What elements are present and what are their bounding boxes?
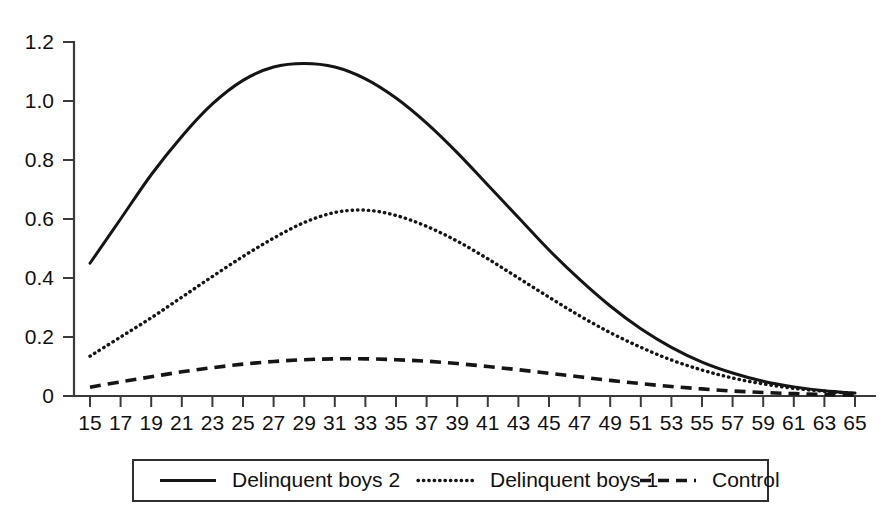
x-tick-label: 37 (415, 411, 438, 434)
y-axis-ticks: 00.20.40.60.81.01.2 (25, 30, 74, 407)
series-line-3 (90, 359, 855, 395)
series-line-1 (90, 64, 855, 394)
x-tick-label: 33 (354, 411, 377, 434)
x-tick-label: 53 (660, 411, 683, 434)
x-tick-label: 29 (293, 411, 316, 434)
y-tick-label: 0 (42, 384, 54, 407)
x-tick-label: 35 (384, 411, 407, 434)
chart-series-group (90, 64, 855, 396)
line-chart: 00.20.40.60.81.01.2 15171921232527293133… (0, 0, 892, 532)
x-tick-label: 23 (201, 411, 224, 434)
x-tick-label: 51 (629, 411, 652, 434)
y-tick-label: 1.2 (25, 30, 54, 53)
x-tick-label: 49 (599, 411, 622, 434)
chart-legend: Delinquent boys 2Delinquent boys 1Contro… (133, 460, 780, 501)
x-tick-label: 17 (109, 411, 132, 434)
x-tick-label: 43 (507, 411, 530, 434)
x-tick-label: 61 (782, 411, 805, 434)
y-tick-label: 0.4 (25, 266, 55, 289)
x-axis-ticks: 1517192123252729313335373941434547495153… (78, 396, 866, 434)
x-tick-label: 31 (323, 411, 346, 434)
y-tick-label: 0.2 (25, 325, 54, 348)
x-tick-label: 21 (170, 411, 193, 434)
y-tick-label: 0.6 (25, 207, 54, 230)
x-tick-label: 27 (262, 411, 285, 434)
x-tick-label: 45 (537, 411, 560, 434)
x-tick-label: 39 (446, 411, 469, 434)
x-tick-label: 55 (690, 411, 713, 434)
y-tick-label: 1.0 (25, 89, 54, 112)
legend-label: Delinquent boys 2 (232, 468, 400, 491)
y-tick-label: 0.8 (25, 148, 54, 171)
x-tick-label: 63 (813, 411, 836, 434)
x-tick-label: 65 (843, 411, 866, 434)
x-tick-label: 47 (568, 411, 591, 434)
chart-figure: 00.20.40.60.81.01.2 15171921232527293133… (0, 0, 892, 532)
x-tick-label: 19 (140, 411, 163, 434)
legend-label: Delinquent boys 1 (490, 468, 658, 491)
chart-axes (74, 42, 875, 396)
x-tick-label: 41 (476, 411, 499, 434)
x-tick-label: 59 (752, 411, 775, 434)
x-tick-label: 57 (721, 411, 744, 434)
x-tick-label: 15 (78, 411, 101, 434)
x-tick-label: 25 (231, 411, 254, 434)
legend-label: Control (712, 468, 780, 491)
